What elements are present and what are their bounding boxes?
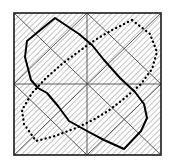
figure-container	[0, 0, 170, 167]
geometric-figure	[0, 0, 170, 167]
